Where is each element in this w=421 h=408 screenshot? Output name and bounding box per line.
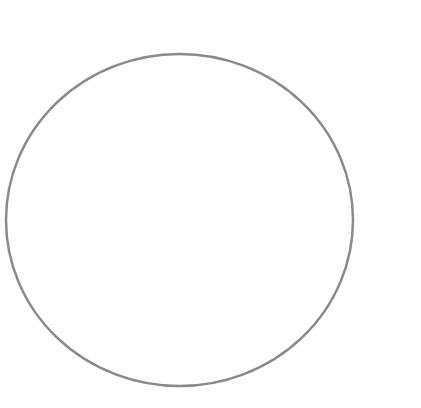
circle-outline bbox=[6, 54, 353, 386]
diagram-canvas bbox=[0, 0, 421, 408]
